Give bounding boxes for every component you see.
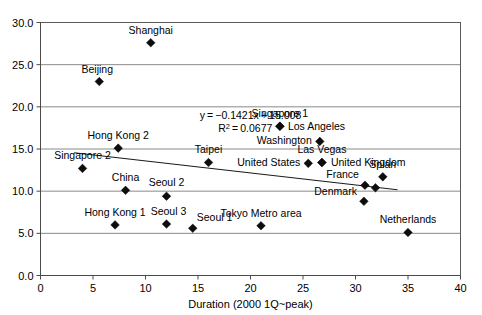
x-tick-label-35: 35 bbox=[402, 282, 414, 294]
data-point-label: Seoul 3 bbox=[151, 205, 187, 217]
x-tick-label-25: 25 bbox=[297, 282, 309, 294]
x-tick-label-0: 0 bbox=[37, 282, 43, 294]
data-point-label: Hong Kong 2 bbox=[88, 129, 149, 141]
x-tick-label-15: 15 bbox=[192, 282, 204, 294]
data-point-label: Spian bbox=[369, 158, 396, 170]
data-point-marker[interactable] bbox=[162, 192, 171, 201]
data-point-marker[interactable] bbox=[146, 38, 155, 47]
data-point-label: Singapore 1 bbox=[252, 107, 309, 119]
data-point-label: France bbox=[326, 168, 359, 180]
data-point-label: Netherlands bbox=[380, 213, 437, 225]
data-point-label: Denmark bbox=[314, 185, 357, 197]
data-point-label: United States bbox=[237, 156, 300, 168]
y-tick-label-20: 20.0 bbox=[12, 101, 33, 113]
x-tick-label-30: 30 bbox=[349, 282, 361, 294]
chart-canvas: 0.05.010.015.020.025.030.005101520253035… bbox=[0, 0, 482, 315]
data-point-marker[interactable] bbox=[379, 173, 388, 182]
y-axis: 0.05.010.015.020.025.030.0 bbox=[12, 17, 40, 282]
data-point-label: Tokyo Metro area bbox=[220, 207, 301, 219]
data-point-marker[interactable] bbox=[95, 77, 104, 86]
x-tick-label-5: 5 bbox=[90, 282, 96, 294]
data-point-marker[interactable] bbox=[318, 158, 327, 167]
data-point-marker[interactable] bbox=[257, 221, 266, 230]
data-point-marker[interactable] bbox=[276, 122, 285, 131]
data-point-marker[interactable] bbox=[162, 220, 171, 229]
data-point-label: Singapore 2 bbox=[54, 149, 111, 161]
data-point-marker[interactable] bbox=[188, 224, 197, 233]
data-point-marker[interactable] bbox=[360, 197, 369, 206]
x-tick-label-10: 10 bbox=[139, 282, 151, 294]
x-axis-title: Duration (2000 1Q~peak) bbox=[188, 298, 312, 310]
data-point-marker[interactable] bbox=[204, 158, 213, 167]
y-tick-label-25: 25.0 bbox=[12, 59, 33, 71]
data-point-label: Seoul 1 bbox=[197, 211, 233, 223]
trendline-r2: R2 = 0.0677 bbox=[218, 122, 272, 135]
data-point-label: Seoul 2 bbox=[149, 176, 185, 188]
scatter-chart-figure: 0.05.010.015.020.025.030.005101520253035… bbox=[0, 0, 482, 315]
y-tick-label-5: 5.0 bbox=[18, 227, 33, 239]
x-tick-label-40: 40 bbox=[454, 282, 466, 294]
y-tick-label-10: 10.0 bbox=[12, 185, 33, 197]
data-point-marker[interactable] bbox=[78, 164, 87, 173]
data-point-marker[interactable] bbox=[361, 181, 370, 190]
x-tick-label-20: 20 bbox=[244, 282, 256, 294]
data-point-label: Los Angeles bbox=[288, 120, 345, 132]
data-point-label: Shanghai bbox=[129, 24, 173, 36]
data-point-marker[interactable] bbox=[114, 144, 123, 153]
data-point-marker[interactable] bbox=[111, 221, 120, 230]
data-point-label: Beijing bbox=[82, 63, 114, 75]
x-axis: 0510152025303540 bbox=[37, 276, 466, 294]
y-tick-label-15: 15.0 bbox=[12, 143, 33, 155]
data-point-marker[interactable] bbox=[121, 186, 130, 195]
data-point-label: Taipei bbox=[195, 143, 222, 155]
data-point-marker[interactable] bbox=[304, 159, 313, 168]
data-point-label: Las Vegas bbox=[297, 143, 346, 155]
data-point-label: Hong Kong 1 bbox=[84, 206, 145, 218]
data-point-label: China bbox=[112, 171, 140, 183]
y-tick-label-30: 30.0 bbox=[12, 17, 33, 29]
y-tick-label-0: 0.0 bbox=[18, 270, 33, 282]
data-point-marker[interactable] bbox=[404, 228, 413, 237]
